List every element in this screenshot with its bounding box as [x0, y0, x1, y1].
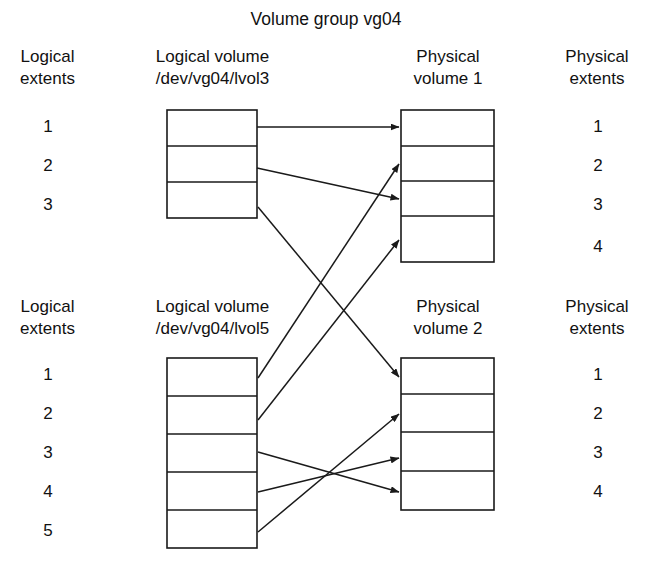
upper-logical-extents-header-line2: extents: [5, 68, 90, 90]
upper-logical-volume-header-line1: Logical volume: [130, 46, 295, 68]
upper-physical-extent-number: 1: [578, 116, 618, 138]
lower-physical-extents-header-line2: extents: [552, 318, 642, 340]
upper-physical-volume-header-line2: volume 1: [400, 68, 496, 90]
mapping-arrow-lvol3-e2-pv1-e3: [257, 168, 399, 199]
lower-logical-volume-header-line2: /dev/vg04/lvol5: [130, 318, 295, 340]
lower-logical-volume-header-line1: Logical volume: [130, 296, 295, 318]
lower-physical-extent-number: 4: [578, 481, 618, 503]
lower-physical-extents-header-line1: Physical: [552, 296, 642, 318]
lower-physical-extent-number: 3: [578, 442, 618, 464]
lvol5-box: [167, 358, 257, 548]
lower-physical-extent-number: 1: [578, 364, 618, 386]
upper-physical-extent-number: 4: [578, 236, 618, 258]
lower-logical-extent-number: 5: [28, 520, 68, 542]
volume-group-diagram: Volume group vg04 Logical extents Logica…: [0, 0, 652, 568]
physical-volume-2-box: [401, 358, 494, 510]
mapping-arrow-lvol5-e5-pv2-e2: [258, 414, 399, 532]
lower-logical-extent-number: 3: [28, 442, 68, 464]
upper-logical-extent-number: 2: [28, 155, 68, 177]
lower-logical-extent-number: 1: [28, 364, 68, 386]
lower-logical-extent-number: 4: [28, 481, 68, 503]
lower-physical-extent-number: 2: [578, 403, 618, 425]
diagram-title: Volume group vg04: [0, 8, 652, 30]
mapping-arrow-lvol5-e1-pv1-e2: [258, 164, 399, 378]
mapping-arrow-lvol3-e3-pv2-e1: [258, 207, 399, 377]
upper-physical-extent-number: 3: [578, 194, 618, 216]
upper-logical-extent-number: 1: [28, 116, 68, 138]
lvol3-box: [167, 110, 257, 218]
upper-physical-extents-header-line2: extents: [552, 68, 642, 90]
lower-physical-volume-header-line2: volume 2: [400, 318, 496, 340]
upper-physical-extents-header-line1: Physical: [552, 46, 642, 68]
upper-physical-volume-header-line1: Physical: [400, 46, 496, 68]
upper-logical-extents-header-line1: Logical: [5, 46, 90, 68]
lower-logical-extents-header-line2: extents: [5, 318, 90, 340]
lower-logical-extent-number: 2: [28, 403, 68, 425]
physical-volume-1-box: [401, 110, 494, 262]
mapping-arrow-lvol5-e4-pv2-e3: [258, 458, 399, 492]
upper-physical-extent-number: 2: [578, 155, 618, 177]
upper-logical-volume-header-line2: /dev/vg04/lvol3: [130, 68, 295, 90]
lower-logical-extents-header-line1: Logical: [5, 296, 90, 318]
mapping-arrow-lvol5-e3-pv2-e4: [258, 452, 399, 492]
upper-logical-extent-number: 3: [28, 194, 68, 216]
lower-physical-volume-header-line1: Physical: [400, 296, 496, 318]
